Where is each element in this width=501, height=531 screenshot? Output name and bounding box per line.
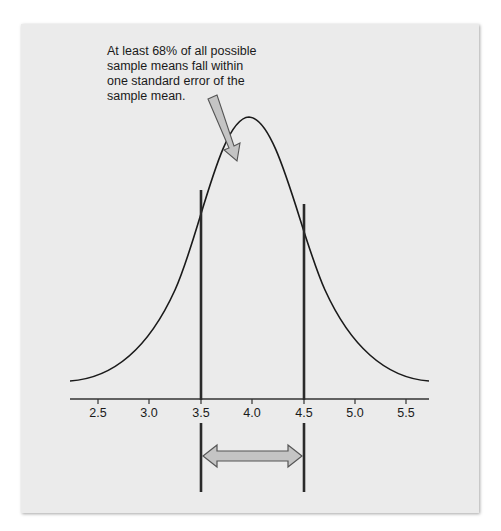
tick-label: 3.5 <box>192 406 209 420</box>
tick-label: 5.0 <box>346 406 363 420</box>
tick-label: 4.0 <box>243 406 260 420</box>
tick-label: 4.5 <box>295 406 312 420</box>
x-axis-labels: 2.5 3.0 3.5 4.0 4.5 5.0 5.5 <box>89 406 414 420</box>
callout-line: sample mean. <box>107 89 307 104</box>
tick-label: 5.5 <box>397 406 414 420</box>
x-axis-ticks <box>98 399 406 404</box>
normal-curve <box>70 117 429 381</box>
callout-annotation: At least 68% of all possible sample mean… <box>107 44 307 104</box>
callout-line: one standard error of the <box>107 74 307 89</box>
double-arrow-icon <box>203 445 302 467</box>
callout-arrow-icon <box>208 95 240 161</box>
callout-line: sample means fall within <box>107 59 307 74</box>
callout-line: At least 68% of all possible <box>107 44 307 59</box>
tick-label: 3.0 <box>140 406 157 420</box>
tick-label: 2.5 <box>89 406 106 420</box>
